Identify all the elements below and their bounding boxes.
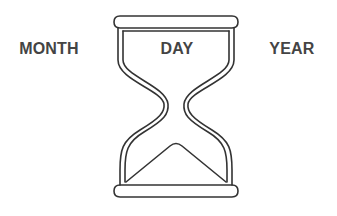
hourglass-icon bbox=[0, 0, 337, 216]
year-label: YEAR bbox=[269, 40, 314, 58]
month-label: MONTH bbox=[19, 40, 79, 58]
day-label: DAY bbox=[161, 40, 194, 58]
hourglass-bottom-cap bbox=[114, 185, 238, 197]
hourglass-top-cap bbox=[114, 16, 238, 28]
hourglass-sand bbox=[126, 144, 226, 183]
